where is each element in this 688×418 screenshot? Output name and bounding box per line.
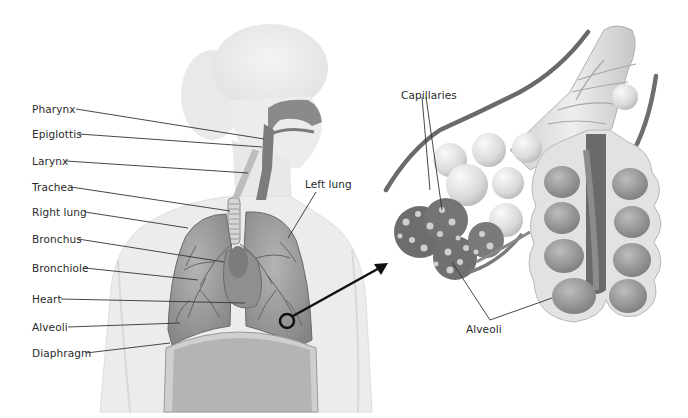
label-heart: Heart — [32, 293, 62, 305]
label-bronchus: Bronchus — [32, 233, 82, 245]
label-right-lung: Right lung — [32, 206, 87, 218]
label-diaphragm: Diaphragm — [32, 347, 91, 359]
label-larynx: Larynx — [32, 155, 68, 167]
capillary-network — [394, 198, 504, 280]
label-alveoli-left: Alveoli — [32, 321, 68, 333]
label-trachea: Trachea — [32, 181, 74, 193]
label-capillaries: Capillaries — [401, 89, 457, 101]
respiratory-diagram: Pharynx Epiglottis Larynx Trachea Right … — [0, 0, 688, 418]
label-alveoli-right: Alveoli — [466, 323, 502, 335]
diagram-artwork — [0, 0, 688, 418]
label-epiglottis: Epiglottis — [32, 128, 82, 140]
alveolar-sac-section — [529, 130, 661, 322]
label-bronchiole: Bronchiole — [32, 262, 89, 274]
label-pharynx: Pharynx — [32, 103, 76, 115]
alveoli-detail — [386, 26, 661, 322]
label-left-lung: Left lung — [305, 178, 352, 190]
